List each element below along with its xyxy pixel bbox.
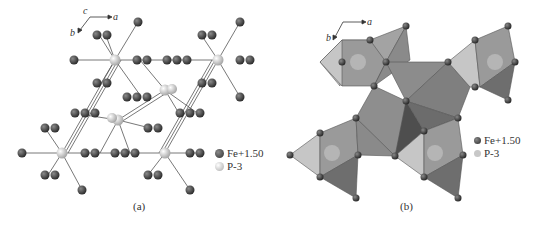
legend-p: P-3 <box>215 160 242 172</box>
panel-a-ball-and-stick: c a b Fe+1.50 P-3 (a) <box>0 0 270 226</box>
p-atom-icon <box>215 162 224 171</box>
legend-fe-label: Fe+1.50 <box>484 134 520 146</box>
axis-indicator-icon <box>333 20 366 40</box>
ball-stick-structure <box>0 0 270 226</box>
legend-p-label: P-3 <box>227 160 242 172</box>
axis-indicator-icon <box>78 15 112 33</box>
axis-label-b: b <box>70 27 75 38</box>
fe-atom-icon <box>215 149 224 158</box>
p-atom-icon <box>474 150 481 157</box>
legend-p: P-3 <box>474 147 499 159</box>
legend-p-label: P-3 <box>484 147 499 159</box>
caption-b: (b) <box>400 200 413 212</box>
legend-fe: Fe+1.50 <box>474 134 520 146</box>
caption-a: (a) <box>133 200 145 212</box>
legend-fe: Fe+1.50 <box>215 147 263 159</box>
panel-b-polyhedral: a b Fe+1.50 P-3 (b) <box>270 0 534 226</box>
fe-atom-icon <box>474 137 481 144</box>
polyhedral-structure <box>270 0 534 226</box>
axis-label-a: a <box>113 11 118 22</box>
axis-label-c: c <box>83 5 87 16</box>
legend-fe-label: Fe+1.50 <box>227 147 263 159</box>
axis-label-a: a <box>367 16 372 27</box>
axis-label-b: b <box>326 32 331 43</box>
